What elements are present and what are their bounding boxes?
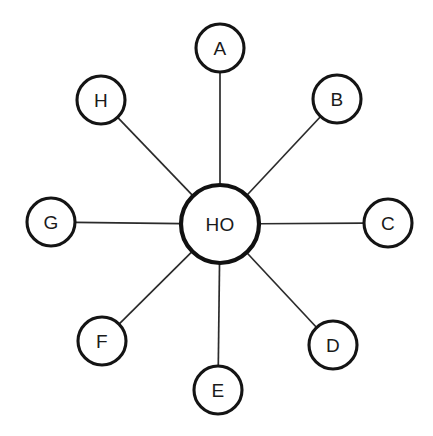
- node-g[interactable]: G: [27, 198, 75, 246]
- node-label-h: H: [94, 90, 108, 111]
- hub-node[interactable]: HO: [181, 185, 259, 263]
- node-f[interactable]: F: [78, 317, 126, 365]
- edge-hub-to-h: [118, 117, 193, 196]
- node-label-g: G: [44, 212, 59, 233]
- node-label-f: F: [96, 331, 108, 352]
- node-label-b: B: [331, 89, 344, 110]
- node-label-a: A: [214, 38, 227, 59]
- node-d[interactable]: D: [309, 321, 357, 369]
- hub-label: HO: [205, 214, 234, 235]
- node-label-d: D: [326, 335, 340, 356]
- edge-hub-to-f: [119, 251, 192, 324]
- edge-hub-to-e: [218, 263, 219, 366]
- node-h[interactable]: H: [77, 76, 125, 124]
- node-label-e: E: [212, 380, 225, 401]
- star-topology-diagram: ABCDEFGH HO: [0, 0, 433, 436]
- hub-layer: HO: [181, 185, 259, 263]
- edge-hub-to-g: [75, 222, 181, 223]
- node-b[interactable]: B: [313, 75, 361, 123]
- edge-hub-to-c: [259, 223, 364, 224]
- edge-hub-to-b: [247, 117, 321, 196]
- node-e[interactable]: E: [194, 366, 242, 414]
- star-diagram-container: ABCDEFGH HO: [0, 0, 433, 436]
- node-label-c: C: [381, 213, 395, 234]
- edge-hub-to-d: [247, 253, 317, 328]
- node-a[interactable]: A: [196, 24, 244, 72]
- node-c[interactable]: C: [364, 199, 412, 247]
